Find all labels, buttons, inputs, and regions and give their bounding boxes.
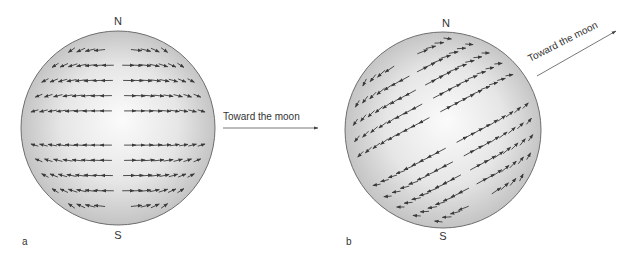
- panel-label-b: b: [346, 236, 352, 247]
- south-label-a: S: [114, 229, 121, 241]
- panel-b-flow-arrow: [457, 48, 466, 49]
- earth-sphere-a: [21, 31, 215, 225]
- panel-b-flow-arrow: [465, 44, 473, 45]
- panel-b-flow-arrow: [442, 217, 451, 218]
- north-label-a: N: [114, 15, 122, 27]
- south-label-b: S: [439, 230, 446, 242]
- moon-direction-label-b: Toward the moon: [526, 19, 599, 64]
- panel-label-a: a: [22, 236, 28, 247]
- panel-b-flow-arrow: [420, 211, 429, 212]
- panel-b-flow-arrow: [435, 43, 444, 44]
- panel-b-flow-arrow: [413, 215, 421, 216]
- tidal-flow-diagram: N S a Toward the moon N S b Toward the m…: [0, 0, 633, 262]
- panel-b: N S b Toward the moon: [345, 17, 616, 247]
- moon-direction-label-a: Toward the moon: [223, 111, 300, 122]
- north-label-b: N: [442, 17, 450, 29]
- panel-a: N S a Toward the moon: [21, 15, 318, 247]
